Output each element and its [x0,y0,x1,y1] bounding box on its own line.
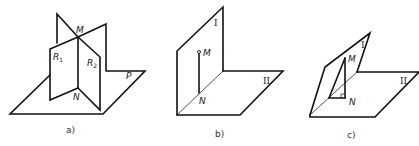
plane-r2-front [78,37,100,110]
label-plane-ii: II [400,76,408,86]
label-plane-ii: II [263,76,271,86]
caption-b: b) [215,129,224,139]
line-m-foot [329,58,345,98]
caption-c: c) [347,130,355,140]
label-r2: R2 [87,58,97,69]
label-m: M [76,25,84,35]
caption-a: a) [66,125,75,135]
label-m: M [348,54,356,64]
panel-a: M N R1 R2 P a) [10,14,145,135]
label-plane-i: I [361,40,365,50]
label-p: P [126,71,132,81]
label-n: N [199,96,206,106]
label-m: M [203,48,211,58]
label-r1: R1 [53,52,63,63]
label-n: N [73,92,80,102]
panel-b: M N I II b) [177,7,283,139]
figure-canvas: M N R1 R2 P a) M N I II b) M N [0,0,419,146]
panel-c: M N I II c) [310,33,419,140]
edge-line [177,71,223,115]
point-m [198,51,201,54]
label-plane-i: I [214,18,218,28]
label-n: N [349,97,356,107]
